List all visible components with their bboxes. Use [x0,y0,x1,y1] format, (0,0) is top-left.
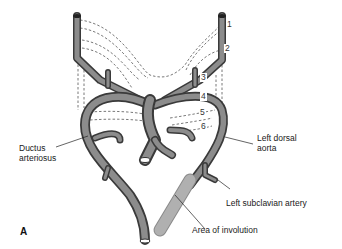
arch-number-2: 2 [224,44,231,53]
arch-number-5: 5 [199,108,206,117]
arch-number-1: 1 [226,20,233,29]
arch-number-3: 3 [200,73,207,82]
vessel-illustration [0,0,342,249]
label-area-of-involution: Area of involution [192,225,258,235]
panel-letter: A [20,226,27,237]
arch-number-6: 6 [200,122,207,131]
label-left-dorsal-aorta: Left dorsal aorta [257,133,297,153]
label-ductus-arteriosus: Ductus arteriosus [19,143,56,163]
label-left-subclavian-artery: Left subclavian artery [226,198,307,208]
aortic-arch-diagram: 1 2 3 4 5 6 Ductus arteriosus Left dorsa… [0,0,342,249]
arch-number-4: 4 [200,92,207,101]
